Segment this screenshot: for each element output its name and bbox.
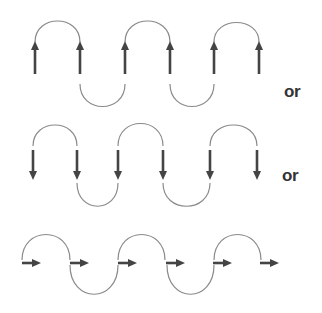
up-arrow-icon xyxy=(255,41,263,74)
down-arrow-icon xyxy=(29,150,37,180)
top-arc xyxy=(33,125,77,146)
top-arc xyxy=(118,235,165,261)
down-arrow-icon xyxy=(159,150,167,180)
or-label-row-2: or xyxy=(282,166,298,186)
up-arrow-icon xyxy=(121,41,129,74)
top-arc xyxy=(214,23,259,43)
up-arrow-icon xyxy=(31,41,39,74)
row-right-arrows xyxy=(22,235,279,295)
row-up-arrows xyxy=(31,21,263,107)
down-arrow-icon xyxy=(114,150,122,180)
right-arrow-icon xyxy=(166,259,185,267)
or-label-row-1: or xyxy=(284,82,300,102)
bottom-arc xyxy=(163,183,210,206)
bottom-arc xyxy=(80,84,125,107)
top-arc xyxy=(214,235,261,261)
down-arrow-icon xyxy=(73,150,81,180)
down-arrow-icon xyxy=(253,150,261,180)
arrow-chain-diagram xyxy=(0,0,322,313)
top-arc xyxy=(35,21,80,42)
up-arrow-icon xyxy=(76,41,84,74)
top-arc xyxy=(125,21,170,42)
up-arrow-icon xyxy=(210,41,218,74)
right-arrow-icon xyxy=(213,259,232,267)
bottom-arc xyxy=(77,183,118,206)
right-arrow-icon xyxy=(22,259,41,267)
right-arrow-icon xyxy=(70,259,89,267)
bottom-arc xyxy=(167,265,214,294)
top-arc xyxy=(22,235,70,261)
top-arc xyxy=(210,125,257,146)
bottom-arc xyxy=(70,265,118,294)
bottom-arc xyxy=(170,84,214,107)
up-arrow-icon xyxy=(166,41,174,74)
row-down-arrows xyxy=(29,124,261,207)
down-arrow-icon xyxy=(206,150,214,180)
top-arc xyxy=(118,124,163,147)
right-arrow-icon xyxy=(118,259,137,267)
right-arrow-icon xyxy=(260,259,279,267)
